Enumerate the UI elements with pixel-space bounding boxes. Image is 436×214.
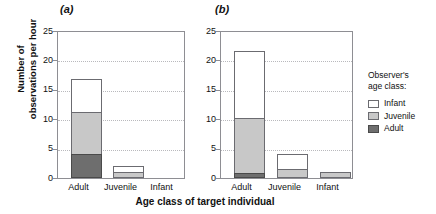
- segment-juvenile: [234, 118, 265, 175]
- y-tick-label-10-b: 10: [196, 115, 216, 124]
- y-tick-label-5-b: 5: [196, 144, 216, 153]
- gridline-20-a: [58, 61, 184, 62]
- legend-swatch-adult-icon: [368, 125, 379, 133]
- y-tick-label-20-b: 20: [196, 56, 216, 65]
- x-tick-label-infant-b: Infant: [299, 182, 356, 193]
- figure: (a) (b) Number of observations per hour …: [0, 0, 436, 214]
- bar-panel-b-juvenile: [277, 153, 308, 178]
- legend-label-juvenile: Juvenile: [384, 112, 415, 121]
- legend-title: Observer's age class:: [368, 70, 436, 91]
- y-tick-label-20-a: 20: [33, 56, 53, 65]
- bar-panel-a-juvenile: [113, 165, 144, 178]
- legend-label-infant: Infant: [384, 99, 405, 108]
- legend-swatch-juvenile-icon: [368, 112, 379, 120]
- y-tick-label-5-a: 5: [33, 144, 53, 153]
- panel-label-a: (a): [60, 3, 73, 15]
- legend-item-adult: Adult: [368, 124, 436, 133]
- segment-adult: [71, 154, 102, 178]
- legend-item-infant: Infant: [368, 99, 436, 108]
- y-tick-label-15-a: 15: [33, 85, 53, 94]
- segment-juvenile: [277, 169, 308, 178]
- y-axis-title-line-1: Number of: [15, 0, 27, 143]
- y-tick-label-25-b: 25: [196, 27, 216, 36]
- segment-infant: [277, 154, 308, 170]
- legend-title-line-1: Observer's: [368, 70, 436, 81]
- segment-adult: [234, 173, 265, 178]
- y-tick-label-15-b: 15: [196, 85, 216, 94]
- x-axis-title: Age class of target individual: [55, 196, 355, 207]
- y-tick-label-25-a: 25: [33, 27, 53, 36]
- bar-panel-b-infant: [320, 172, 351, 178]
- plot-area-panel-b: [220, 31, 353, 179]
- segment-juvenile: [320, 172, 351, 178]
- y-tick-label-10-a: 10: [33, 115, 53, 124]
- segment-infant: [71, 79, 102, 113]
- segment-juvenile: [71, 112, 102, 155]
- segment-juvenile: [113, 172, 144, 178]
- legend: Observer's age class: Infant Juvenile Ad…: [368, 70, 436, 137]
- segment-infant: [234, 51, 265, 119]
- legend-label-adult: Adult: [384, 124, 403, 133]
- legend-swatch-infant-icon: [368, 100, 379, 108]
- x-tick-label-infant-a: Infant: [133, 182, 190, 193]
- bar-panel-b-adult: [234, 49, 265, 178]
- plot-area-panel-a: [57, 31, 185, 179]
- legend-item-juvenile: Juvenile: [368, 112, 436, 121]
- bar-panel-a-adult: [71, 77, 102, 178]
- legend-title-line-2: age class:: [368, 81, 436, 92]
- panel-label-b: (b): [215, 3, 229, 15]
